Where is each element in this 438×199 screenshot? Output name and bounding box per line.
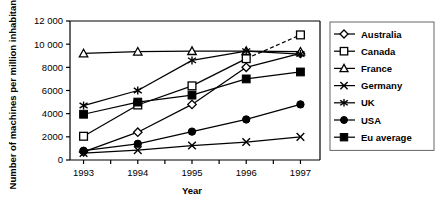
y-tick-label: 6000	[42, 85, 63, 96]
x-tick-label: 1996	[236, 167, 257, 178]
y-tick-label: 12 000	[34, 15, 63, 26]
legend-label: Eu average	[361, 132, 412, 143]
chart-figure: 0200040006000800010 00012 000 1993199419…	[0, 0, 438, 199]
legend-label: Germany	[361, 80, 403, 91]
legend-label: USA	[361, 115, 381, 126]
x-tick-label: 1997	[290, 167, 311, 178]
legend-label: Canada	[361, 46, 396, 57]
y-tick-label: 2000	[42, 131, 63, 142]
y-tick-label: 4000	[42, 108, 63, 119]
legend-label: Australia	[361, 29, 402, 40]
legend-item-australia: Australia	[334, 29, 402, 40]
legend-item-canada: Canada	[334, 46, 396, 57]
line-chart: 0200040006000800010 00012 000 1993199419…	[0, 0, 438, 199]
legend-label: France	[361, 63, 392, 74]
y-tick-label: 0	[58, 154, 63, 165]
x-axis-title: Year	[182, 185, 202, 196]
legend-item-eu-average: Eu average	[334, 132, 412, 143]
x-tick-label: 1995	[181, 167, 202, 178]
y-tick-label: 8000	[42, 62, 63, 73]
x-tick-label: 1993	[73, 167, 94, 178]
legend: AustraliaCanadaFranceGermanyUKUSAEu aver…	[330, 22, 434, 150]
x-tick-label: 1994	[127, 167, 148, 178]
y-tick-label: 10 000	[34, 39, 63, 50]
y-axis-title: Number of machines per million inhabitan…	[7, 0, 18, 189]
legend-label: UK	[361, 97, 375, 108]
